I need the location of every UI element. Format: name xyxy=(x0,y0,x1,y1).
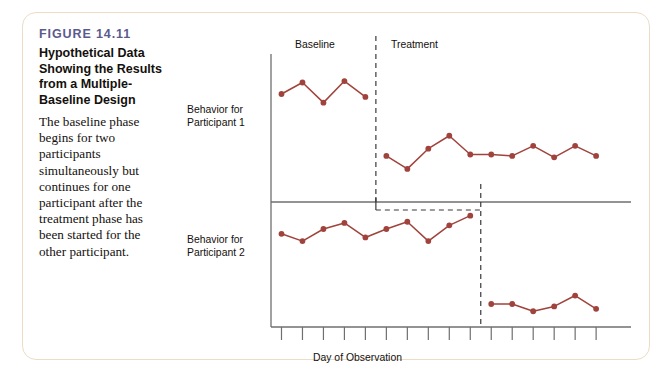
data-point xyxy=(279,91,285,97)
data-point xyxy=(300,238,306,244)
data-point xyxy=(383,226,389,232)
multiple-baseline-chart-svg xyxy=(163,21,633,351)
figure-number: FIGURE 14.11 xyxy=(39,27,169,41)
chart-plot-area: Baseline Treatment Behavior for Particip… xyxy=(163,21,633,351)
data-point xyxy=(404,219,410,225)
data-point xyxy=(342,220,348,226)
data-point xyxy=(425,146,431,152)
data-point xyxy=(488,301,494,307)
data-point xyxy=(279,231,285,237)
data-point xyxy=(572,293,578,299)
series-line-baseline-2 xyxy=(281,216,470,241)
data-point xyxy=(300,80,306,86)
data-point xyxy=(593,153,599,159)
figure-card: FIGURE 14.11 Hypothetical Data Showing t… xyxy=(22,12,650,360)
data-point xyxy=(404,166,410,172)
data-point xyxy=(572,143,578,149)
data-point xyxy=(551,304,557,310)
data-point xyxy=(509,153,515,159)
figure-caption-column: FIGURE 14.11 Hypothetical Data Showing t… xyxy=(39,27,169,260)
data-point xyxy=(509,301,515,307)
data-point xyxy=(446,222,452,228)
series-line-baseline-1 xyxy=(281,81,365,103)
data-point xyxy=(530,308,536,314)
data-point xyxy=(362,94,368,100)
data-point xyxy=(593,306,599,312)
data-point xyxy=(425,238,431,244)
figure-description: The baseline phase begins for two partic… xyxy=(39,114,169,260)
data-point xyxy=(488,152,494,158)
data-point xyxy=(530,143,536,149)
data-point xyxy=(467,213,473,219)
data-point xyxy=(467,152,473,158)
data-point xyxy=(383,153,389,159)
data-point xyxy=(551,154,557,160)
data-point xyxy=(342,78,348,84)
series-line-treatment-2 xyxy=(491,296,596,312)
data-point xyxy=(362,235,368,241)
figure-title: Hypothetical Data Showing the Results fr… xyxy=(39,46,169,108)
x-axis-label: Day of Observation xyxy=(313,352,402,363)
data-point xyxy=(321,226,327,232)
data-point xyxy=(321,100,327,106)
data-point xyxy=(446,133,452,139)
